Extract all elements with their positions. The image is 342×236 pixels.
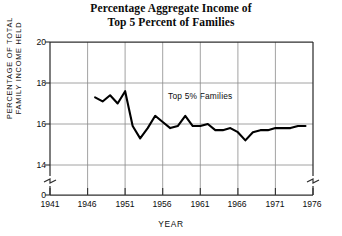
y-tick-marks [45, 42, 50, 195]
x-tick-marks [50, 188, 313, 195]
y-axis-break-icon [44, 179, 56, 183]
plot-frame [50, 42, 313, 195]
plot-area [0, 0, 342, 236]
gridlines-horizontal [50, 83, 313, 165]
chart-figure: Percentage Aggregate Income of Top 5 Per… [0, 0, 342, 236]
x-axis-break-icon [307, 179, 319, 183]
axis-break-marks [44, 179, 319, 183]
gridlines-vertical [88, 42, 276, 195]
